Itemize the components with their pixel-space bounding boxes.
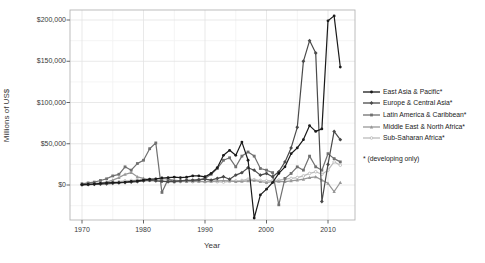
legend-label: East Asia & Pacific* <box>383 88 442 96</box>
y-tick-label-50000: $50,000 <box>14 140 66 148</box>
y-tick-label-0: $0 <box>14 181 66 189</box>
europe-central-asia-line-marker-icon <box>363 99 380 107</box>
y-axis-title: Millions of US$ <box>2 66 11 166</box>
x-axis-title: Year <box>162 241 262 250</box>
x-tick-label-1980: 1980 <box>127 226 159 234</box>
y-tick-label-100000: $100,000 <box>14 99 66 107</box>
legend-item-middle-east-north-africa: Middle East & North Africa* <box>363 121 467 133</box>
legend-label: Latin America & Caribbean* <box>383 111 467 119</box>
legend-item-europe-central-asia: Europe & Central Asia* <box>363 98 467 110</box>
developing-only-footnote: * (developing only) <box>363 155 419 162</box>
legend-label: Middle East & North Africa* <box>383 123 465 131</box>
legend-item-sub-saharan-africa: Sub-Saharan Africa* <box>363 132 467 144</box>
line-chart-figure: Millions of US$ Year $200,000 $150,000 $… <box>0 0 485 263</box>
x-tick-label-1970: 1970 <box>66 226 98 234</box>
legend: East Asia & Pacific* Europe & Central As… <box>363 86 467 144</box>
legend-label: Europe & Central Asia* <box>383 99 453 107</box>
y-tick-label-150000: $150,000 <box>14 57 66 65</box>
x-tick-label-2010: 2010 <box>312 226 344 234</box>
x-tick-label-2000: 2000 <box>250 226 282 234</box>
latin-america-caribbean-line-marker-icon <box>363 111 380 119</box>
legend-item-latin-america-caribbean: Latin America & Caribbean* <box>363 109 467 121</box>
east-asia-pacific-line-marker-icon <box>363 88 380 96</box>
legend-item-east-asia-pacific: East Asia & Pacific* <box>363 86 467 98</box>
middle-east-north-africa-line-marker-icon <box>363 123 380 131</box>
y-tick-label-200000: $200,000 <box>14 16 66 24</box>
sub-saharan-africa-line-marker-icon <box>363 134 380 142</box>
legend-label: Sub-Saharan Africa* <box>383 134 445 142</box>
x-tick-label-1990: 1990 <box>189 226 221 234</box>
